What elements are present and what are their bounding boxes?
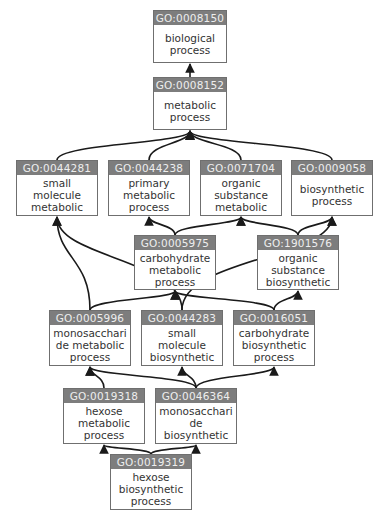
go-term-id: GO:0005996 xyxy=(50,311,130,325)
go-term-id: GO:0044281 xyxy=(17,161,97,175)
go-term-id: GO:0046364 xyxy=(156,389,236,403)
go-term-node[interactable]: GO:0005975carbohydrate metabolic process xyxy=(134,235,216,290)
is-a-edge xyxy=(57,131,190,160)
go-term-label: organic substance metabolic xyxy=(201,175,281,215)
go-term-id: GO:0019318 xyxy=(64,389,144,403)
go-term-node[interactable]: GO:0046364monosacchari de biosynthetic xyxy=(155,388,237,444)
go-term-label: biosynthetic process xyxy=(292,175,372,215)
go-term-id: GO:0044238 xyxy=(109,161,189,175)
is-a-edge xyxy=(90,367,196,388)
is-a-edge xyxy=(151,445,196,454)
go-term-node[interactable]: GO:0008152metabolic process xyxy=(153,77,227,130)
is-a-edge xyxy=(175,291,274,310)
go-term-node[interactable]: GO:0008150biological process xyxy=(153,10,227,63)
go-term-label: small molecule metabolic xyxy=(17,175,97,215)
is-a-edge xyxy=(175,217,241,235)
go-term-label: metabolic process xyxy=(154,92,226,129)
is-a-edge xyxy=(190,131,332,160)
go-term-id: GO:0016051 xyxy=(234,311,314,325)
go-term-label: monosacchari de metabolic process xyxy=(50,325,130,365)
go-term-node[interactable]: GO:0044238primary metabolic process xyxy=(108,160,190,216)
go-term-id: GO:0005975 xyxy=(135,236,215,250)
go-term-node[interactable]: GO:0005996monosacchari de metabolic proc… xyxy=(49,310,131,366)
go-term-node[interactable]: GO:0071704organic substance metabolic xyxy=(200,160,282,216)
go-term-label: primary metabolic process xyxy=(109,175,189,215)
is-a-edge xyxy=(274,291,298,310)
go-term-node[interactable]: GO:0044281small molecule metabolic xyxy=(16,160,98,216)
go-term-id: GO:0019319 xyxy=(111,455,191,469)
go-term-id: GO:0071704 xyxy=(201,161,281,175)
go-term-id: GO:0009058 xyxy=(292,161,372,175)
go-term-label: organic substance biosynthetic xyxy=(258,250,338,289)
go-term-label: hexose biosynthetic process xyxy=(111,469,191,509)
go-term-label: carbohydrate biosynthetic process xyxy=(234,325,314,365)
go-term-id: GO:0008152 xyxy=(154,78,226,92)
go-term-label: biological process xyxy=(154,25,226,62)
go-term-node[interactable]: GO:0009058biosynthetic process xyxy=(291,160,373,216)
is-a-edge xyxy=(149,217,175,235)
is-a-edge xyxy=(90,291,175,310)
go-term-node[interactable]: GO:0016051carbohydrate biosynthetic proc… xyxy=(233,310,315,366)
go-term-id: GO:0008150 xyxy=(154,11,226,25)
go-term-id: GO:1901576 xyxy=(258,236,338,250)
go-term-id: GO:0044283 xyxy=(142,311,222,325)
go-term-label: carbohydrate metabolic process xyxy=(135,250,215,289)
go-term-label: hexose metabolic process xyxy=(64,403,144,443)
go-term-node[interactable]: GO:0044283small molecule biosynthetic xyxy=(141,310,223,366)
is-a-edge xyxy=(298,217,332,235)
is-a-edge xyxy=(241,217,298,235)
go-term-node[interactable]: GO:0019318hexose metabolic process xyxy=(63,388,145,444)
is-a-edge xyxy=(196,367,274,388)
go-term-node[interactable]: GO:1901576organic substance biosynthetic xyxy=(257,235,339,290)
go-term-node[interactable]: GO:0019319hexose biosynthetic process xyxy=(110,454,192,510)
go-term-label: small molecule biosynthetic xyxy=(142,325,222,365)
go-term-label: monosacchari de biosynthetic xyxy=(156,403,236,443)
is-a-edge xyxy=(104,445,151,454)
